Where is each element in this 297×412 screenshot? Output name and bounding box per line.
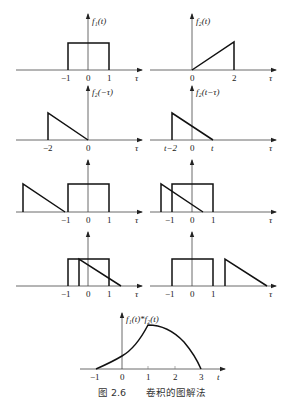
panel-f2-flip: f₂(−τ) −2 0 τ xyxy=(16,86,142,153)
tick-label: 0 xyxy=(190,289,195,299)
tick-label: 3 xyxy=(199,372,204,382)
tick-label: −1 xyxy=(61,73,71,83)
result-label: f₁(t)*f₂(t) xyxy=(126,314,159,324)
f2-label: f₂(t) xyxy=(196,16,210,26)
panel-result: f₁(t)*f₂(t) −1 0 1 2 3 t xyxy=(80,313,225,382)
panel-case-c: −1 0 1 τ xyxy=(16,232,142,299)
panel-f2: f₂(t) 0 2 τ xyxy=(150,14,276,83)
tick-label: −1 xyxy=(165,215,175,225)
figure-caption-number: 图 2.6 xyxy=(98,387,126,398)
tick-label: −1 xyxy=(165,289,175,299)
axis-label: τ xyxy=(269,215,273,225)
tick-label: 0 xyxy=(120,372,125,382)
axis-label: τ xyxy=(135,215,139,225)
tick-label: 1 xyxy=(211,215,216,225)
tick-label: 1 xyxy=(211,289,216,299)
convolution-curve xyxy=(96,325,201,369)
f1-rectangle xyxy=(68,259,109,286)
tick-label: t xyxy=(211,143,214,153)
tick-label: 0 xyxy=(190,73,195,83)
f2-shift-ramp xyxy=(225,259,267,286)
panel-f1: f₁(t) −1 0 1 τ xyxy=(16,14,142,83)
panel-case-a: −1 0 1 τ xyxy=(16,160,142,225)
tick-label: −1 xyxy=(90,372,100,382)
f2-shift-label: f₂(t−τ) xyxy=(196,87,219,97)
figure-caption-text: 卷积的图解法 xyxy=(146,387,206,398)
tick-label: 0 xyxy=(190,143,195,153)
tick-label: 0 xyxy=(190,215,195,225)
f2-flip-label: f₂(−τ) xyxy=(92,87,113,97)
f2-shift-ramp xyxy=(161,184,203,212)
axis-label: τ xyxy=(269,73,273,83)
convolution-diagram: f₁(t) −1 0 1 τ f₂(t) 0 2 τ f₂(−τ) −2 0 τ… xyxy=(0,0,297,412)
tick-label: 2 xyxy=(232,73,237,83)
tick-label: 1 xyxy=(146,372,151,382)
f1-rectangle xyxy=(68,43,109,70)
f1-rectangle xyxy=(172,259,213,286)
panel-case-d: −1 0 1 τ xyxy=(150,232,276,299)
panel-case-b: −1 0 1 τ xyxy=(150,160,276,225)
f1-rectangle xyxy=(172,184,213,212)
axis-label: τ xyxy=(135,73,139,83)
f2-ramp xyxy=(192,42,234,70)
tick-label: 0 xyxy=(86,289,91,299)
f1-rectangle xyxy=(68,184,109,212)
tick-label: 0 xyxy=(86,215,91,225)
tick-label: −1 xyxy=(61,289,71,299)
f2-shift-ramp xyxy=(79,259,121,286)
f2-flip-ramp xyxy=(48,113,88,140)
tick-label: 0 xyxy=(86,143,91,153)
f2-shift-ramp xyxy=(23,184,65,212)
tick-label: 1 xyxy=(107,215,112,225)
f1-label: f₁(t) xyxy=(92,16,106,26)
axis-label: τ xyxy=(135,143,139,153)
axis-label: τ xyxy=(269,143,273,153)
panel-f2-shift: f₂(t−τ) t−2 0 t τ xyxy=(150,86,276,153)
tick-label: 1 xyxy=(107,73,112,83)
tick-label: 0 xyxy=(86,73,91,83)
tick-label: −1 xyxy=(61,215,71,225)
axis-label: τ xyxy=(269,289,273,299)
tick-label: 2 xyxy=(173,372,178,382)
tick-label: t−2 xyxy=(164,143,178,153)
f2-shift-ramp xyxy=(172,113,213,140)
axis-label: τ xyxy=(135,289,139,299)
tick-label: 1 xyxy=(107,289,112,299)
tick-label: −2 xyxy=(43,143,53,153)
axis-label: t xyxy=(217,372,220,382)
